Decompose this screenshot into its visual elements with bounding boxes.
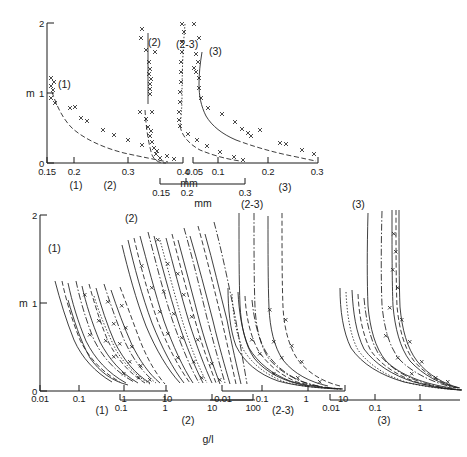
- figure-svg: 2 1 0 m 0.15 0.2 0.3 0.4 (1) (2) mm: [0, 0, 467, 457]
- figure-root: 2 1 0 m 0.15 0.2 0.3 0.4 (1) (2) mm: [0, 0, 467, 457]
- bottom-ax5-tick-1: 0.1: [369, 402, 381, 413]
- top-axc-tick-2: 0.3: [239, 187, 251, 198]
- bottom-ax2-tick-0: 0.1: [115, 402, 127, 413]
- bottom-ytick-2: 2: [32, 210, 37, 221]
- bottom-y-axis-label: m: [19, 297, 28, 309]
- bottom-ax1-tick-0: 0.01: [31, 393, 48, 404]
- bottom-group-label-1: (1): [48, 242, 61, 254]
- top-group-label-3: (3): [209, 45, 222, 57]
- top-series-3: [192, 22, 316, 161]
- top-group-label-1: (1): [58, 78, 71, 90]
- top-group-label-23: (2-3): [176, 38, 198, 50]
- bottom-cluster-23: [228, 213, 343, 389]
- top-axc-unit: mm: [194, 197, 212, 209]
- top-axb-caption-3: (3): [279, 181, 292, 193]
- bottom-ax2-tick-1: 1: [163, 402, 168, 413]
- bottom-x-axis-label: g/l: [202, 433, 213, 445]
- top-x-axis-c: 0.15 0.2 0.3 mm: [152, 178, 251, 209]
- top-ytick-2: 2: [39, 18, 44, 29]
- top-x-axis-b: 0.05 0.1 0.2 0.3 (3): [185, 157, 323, 193]
- bottom-ax1-tick-1: 0.1: [73, 393, 85, 404]
- top-series-3-markers: [192, 22, 316, 156]
- bottom-ax5-tick-2: 1: [418, 402, 423, 413]
- top-ytick-1: 1: [39, 88, 44, 99]
- bottom-cluster-2-markers: [140, 238, 222, 382]
- bottom-ax2-caption: (2): [182, 414, 195, 426]
- top-axa-tick-1: 0.2: [68, 166, 80, 177]
- top-axa-caption-2: (2): [104, 179, 117, 191]
- bottom-ax5-tick-0: 0.01: [322, 402, 339, 413]
- top-axa-caption-1: (1): [70, 179, 83, 191]
- top-panel: 2 1 0 m 0.15 0.2 0.3 0.4 (1) (2) mm: [26, 18, 323, 209]
- bottom-cluster-1: [55, 281, 165, 385]
- top-axa-tick-0: 0.15: [38, 166, 55, 177]
- top-axb-tick-3: 0.3: [311, 166, 323, 177]
- top-y-axis-label: m: [26, 87, 35, 99]
- top-axc-tick-0: 0.15: [152, 187, 169, 198]
- top-axb-tick-0: 0.05: [185, 166, 202, 177]
- bottom-ax3-tick-2: 1: [304, 393, 309, 404]
- top-y-axis: 2 1 0 m: [26, 18, 54, 169]
- bottom-group-label-23: (2-3): [241, 198, 263, 210]
- bottom-cluster-3: [340, 210, 462, 390]
- top-axb-tick-2: 0.2: [262, 166, 274, 177]
- bottom-ax3-tick-0: 0.01: [214, 393, 231, 404]
- bottom-y-axis: 2 1 0 m: [19, 210, 47, 397]
- top-x-axis-a: 0.15 0.2 0.3 0.4 (1) (2) mm: [38, 157, 198, 191]
- bottom-ax5-caption: (3): [378, 414, 391, 426]
- top-axc-tick-1: 0.2: [181, 187, 193, 198]
- top-axa-tick-2: 0.3: [122, 166, 134, 177]
- bottom-x-axis-2: 0.1 1 10 (2): [115, 394, 255, 426]
- bottom-ytick-1: 1: [32, 298, 37, 309]
- top-axb-tick-1: 0.1: [212, 166, 224, 177]
- bottom-group-label-2: (2): [125, 212, 138, 224]
- bottom-ax3-caption: (2-3): [272, 404, 294, 416]
- bottom-ax1-caption: (1): [96, 404, 109, 416]
- top-group-label-2: (2): [148, 36, 161, 48]
- bottom-ax4-tick-0: 100: [246, 402, 261, 413]
- bottom-group-label-3: (3): [352, 198, 365, 210]
- bottom-panel: 2 1 0 m 0.01 0.1 1 10 (1) 0.1 1 10: [19, 198, 462, 445]
